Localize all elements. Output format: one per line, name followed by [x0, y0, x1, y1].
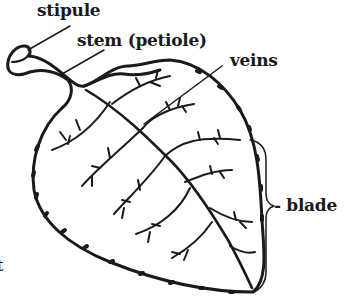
veins [52, 70, 255, 260]
veins-leader [144, 66, 222, 124]
stem-leader [62, 50, 104, 74]
midrib [86, 90, 252, 288]
leaf-diagram [0, 0, 355, 303]
stipule-leader [28, 26, 70, 50]
